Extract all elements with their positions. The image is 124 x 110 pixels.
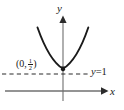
vertex-comma: , <box>24 59 27 69</box>
vertex-y-fraction: 12 <box>28 58 33 73</box>
parabola-figure: y x y=1 (0,12) <box>0 0 124 110</box>
figure-canvas <box>0 0 124 110</box>
asymptote-label: y=1 <box>91 67 107 78</box>
fraction-denominator: 2 <box>28 65 32 72</box>
vertex-close-paren: ) <box>33 59 36 69</box>
x-axis <box>5 87 109 94</box>
x-axis-label: x <box>110 86 115 97</box>
x-axis-arrowhead-icon <box>101 87 109 94</box>
y-axis-arrowhead-icon <box>59 16 66 24</box>
y-axis <box>59 16 66 102</box>
asymptote-value: 1 <box>102 66 107 77</box>
fraction-numerator: 1 <box>28 58 32 65</box>
vertex-coordinate-label: (0,12) <box>16 57 37 72</box>
y-axis-label: y <box>57 3 62 14</box>
